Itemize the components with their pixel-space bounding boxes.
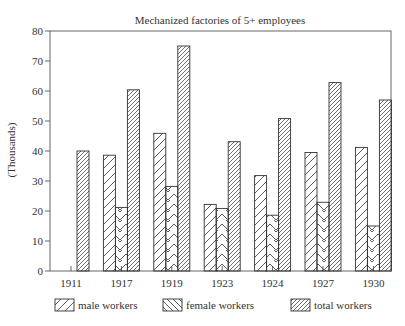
bar xyxy=(305,153,317,272)
legend: male workers female workers total worker… xyxy=(55,299,372,311)
bar xyxy=(329,83,341,271)
bar xyxy=(166,186,178,271)
x-tick-label: 1930 xyxy=(362,277,385,289)
x-tick-label: 1924 xyxy=(262,277,285,289)
male-swatch-icon xyxy=(55,299,74,311)
y-tick-label: 50 xyxy=(32,115,44,127)
bar xyxy=(204,204,216,271)
y-tick-label: 80 xyxy=(32,25,44,37)
bar xyxy=(255,176,267,271)
legend-item-male: male workers xyxy=(55,299,138,311)
x-tick-label: 1917 xyxy=(110,277,133,289)
bar xyxy=(267,215,279,271)
legend-label: male workers xyxy=(78,299,138,311)
bars xyxy=(77,46,391,271)
total-swatch-icon xyxy=(291,299,310,311)
y-tick-label: 20 xyxy=(32,205,44,217)
x-tick-label: 1923 xyxy=(211,277,234,289)
bar xyxy=(154,133,166,271)
legend-item-female: female workers xyxy=(163,299,254,311)
y-tick-label: 10 xyxy=(32,235,44,247)
bar xyxy=(355,147,367,271)
chart-title: Mechanized factories of 5+ employees xyxy=(135,14,306,26)
x-tick-label: 1927 xyxy=(312,277,335,289)
x-tick-label: 1919 xyxy=(161,277,184,289)
y-axis-label: (Thousands) xyxy=(5,122,18,177)
bar xyxy=(77,151,89,271)
bar xyxy=(115,207,127,271)
bar xyxy=(317,202,329,271)
legend-item-total: total workers xyxy=(291,299,372,311)
y-tick-label: 30 xyxy=(32,175,44,187)
bar xyxy=(379,100,391,271)
y-axis: 01020304050607080 xyxy=(32,25,50,277)
bar xyxy=(103,155,115,271)
female-swatch-icon xyxy=(163,299,182,311)
bar xyxy=(279,119,291,271)
y-tick-label: 0 xyxy=(38,265,44,277)
bar xyxy=(127,90,139,271)
legend-label: total workers xyxy=(314,299,372,311)
bar-chart: Mechanized factories of 5+ employees 010… xyxy=(0,0,405,326)
y-tick-label: 40 xyxy=(32,145,44,157)
bar xyxy=(367,226,379,271)
y-tick-label: 60 xyxy=(32,85,44,97)
bar xyxy=(178,46,190,271)
bar xyxy=(216,209,228,271)
y-tick-label: 70 xyxy=(32,55,44,67)
legend-label: female workers xyxy=(186,299,254,311)
bar xyxy=(228,142,240,271)
x-tick-label: 1911 xyxy=(60,277,82,289)
